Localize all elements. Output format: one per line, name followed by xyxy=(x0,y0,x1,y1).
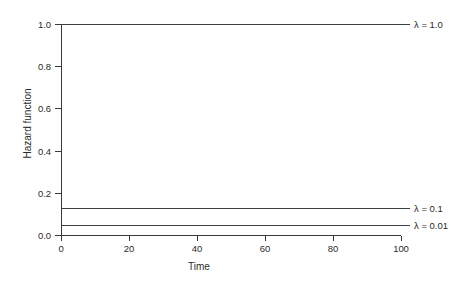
series-line-lambda-1.0 xyxy=(61,24,410,25)
x-tick-80 xyxy=(333,236,334,241)
y-tick-label-0.2: 0.2 xyxy=(38,188,51,199)
series-label-lambda-0.1: λ = 0.1 xyxy=(414,203,443,214)
x-tick-40 xyxy=(197,236,198,241)
y-tick-0.2 xyxy=(55,193,61,194)
y-tick-label-0.6: 0.6 xyxy=(38,103,51,114)
x-axis-title-text: Time xyxy=(188,261,210,272)
y-axis-line xyxy=(61,24,62,236)
y-tick-0.4 xyxy=(55,151,61,152)
series-label-lambda-1.0: λ = 1.0 xyxy=(414,19,443,30)
x-tick-label-40: 40 xyxy=(192,243,202,254)
x-axis-line xyxy=(61,235,401,236)
y-tick-label-0.0: 0.0 xyxy=(38,230,51,241)
y-tick-0.6 xyxy=(55,108,61,109)
x-tick-label-60: 60 xyxy=(260,243,270,254)
x-tick-0 xyxy=(61,236,62,241)
series-line-lambda-0.01 xyxy=(61,225,410,226)
y-tick-label-0.8: 0.8 xyxy=(38,61,51,72)
x-axis-title: Time xyxy=(0,261,462,272)
y-tick-label-1.0: 1.0 xyxy=(38,19,51,30)
y-tick-0.8 xyxy=(55,66,61,67)
y-axis-title: Hazard function xyxy=(22,49,33,199)
x-tick-60 xyxy=(265,236,266,241)
x-tick-label-100: 100 xyxy=(393,243,409,254)
hazard-function-chart: 1.0 0.8 0.6 0.4 0.2 0.0 0 20 40 60 80 10… xyxy=(0,0,462,288)
series-line-lambda-0.1 xyxy=(61,208,410,209)
x-tick-label-80: 80 xyxy=(328,243,338,254)
series-label-lambda-0.01: λ = 0.01 xyxy=(414,220,448,231)
x-tick-100 xyxy=(401,236,402,241)
y-tick-label-0.4: 0.4 xyxy=(38,146,51,157)
x-tick-label-0: 0 xyxy=(58,243,63,254)
x-tick-label-20: 20 xyxy=(124,243,134,254)
x-tick-20 xyxy=(129,236,130,241)
